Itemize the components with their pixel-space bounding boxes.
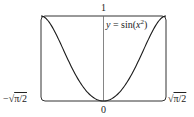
- x-origin-label: 0: [101, 105, 106, 115]
- graph-canvas: [0, 0, 194, 117]
- y-max-label: 1: [101, 3, 106, 13]
- x-min-value: π/2: [14, 93, 27, 104]
- x-min-label: −√π/2: [3, 94, 27, 104]
- x-max-value: π/2: [174, 93, 187, 104]
- func-close: ): [144, 19, 147, 30]
- function-label: y = sin(x2): [106, 19, 147, 30]
- x-max-label: √π/2: [168, 94, 186, 104]
- func-eq: = sin(: [110, 19, 136, 30]
